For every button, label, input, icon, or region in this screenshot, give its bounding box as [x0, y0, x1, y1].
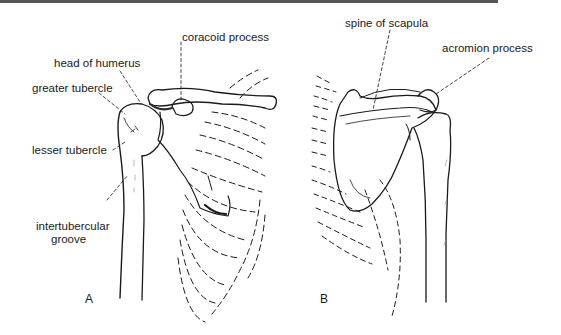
panel-a-drawing: [99, 42, 276, 322]
label-coracoid-process: coracoid process: [182, 31, 269, 44]
label-intertubercular-groove-line2: groove: [51, 233, 86, 246]
label-acromion-process: acromion process: [442, 42, 533, 55]
panel-letter-b: B: [320, 292, 328, 306]
label-greater-tubercle: greater tubercle: [32, 82, 113, 95]
label-intertubercular-groove-line1: intertubercular: [36, 220, 110, 233]
label-lesser-tubercle: lesser tubercle: [32, 144, 107, 157]
label-head-of-humerus: head of humerus: [54, 57, 140, 70]
panel-letter-a: A: [85, 292, 93, 306]
panel-b-drawing: [312, 30, 489, 316]
label-spine-of-scapula: spine of scapula: [345, 17, 428, 30]
